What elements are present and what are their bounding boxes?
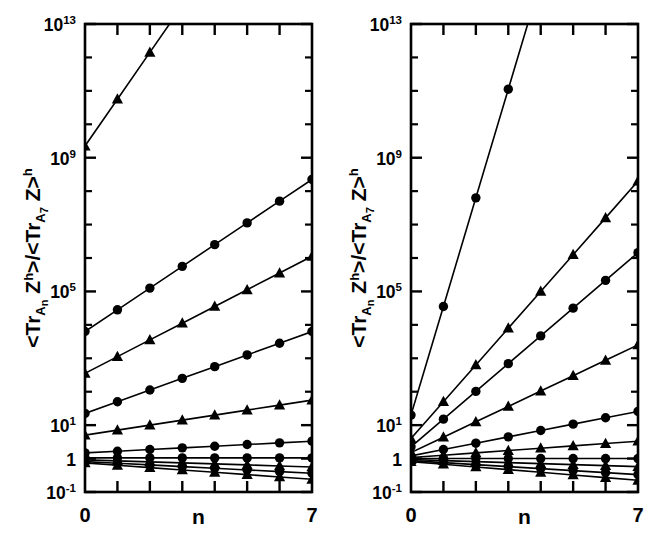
y-ticklabel-right-3: 101 [376, 415, 402, 436]
data-point-left-s6-5 [242, 440, 251, 449]
y-ticklabel-left-3: 101 [50, 415, 76, 436]
data-point-left-s3-0 [79, 367, 90, 377]
y-ticklabel-left-5: 10-1 [46, 482, 76, 503]
data-point-right-r4-7 [632, 339, 643, 349]
data-point-right-r3-7 [633, 248, 642, 257]
x-axis-title-text-left: n [192, 505, 205, 528]
data-point-left-s4-3 [178, 374, 187, 383]
series-right-r4 [405, 339, 643, 457]
data-point-right-r4-1 [438, 431, 449, 441]
data-point-right-r4-2 [470, 416, 481, 426]
data-point-left-s3-5 [242, 284, 253, 294]
data-point-left-s6-4 [210, 442, 219, 451]
data-point-right-r3-4 [536, 331, 545, 340]
data-point-left-s6-6 [275, 438, 284, 447]
y-axis-title-text-left: <TrAn Zh>/<TrA7 Z>h [20, 168, 50, 348]
y-ticklabel-right-2: 105 [376, 281, 402, 302]
data-point-right-r3-2 [471, 387, 480, 396]
data-point-right-r5-3 [504, 432, 513, 441]
data-point-left-s2-0 [80, 327, 89, 336]
series-clip-layer-right [405, 0, 643, 485]
data-point-left-s6-2 [145, 445, 154, 454]
y-axis-title-right: <TrAn Zh>/<TrA7 Z>h [346, 168, 376, 348]
data-point-left-s4-6 [275, 339, 284, 348]
x-ticklabel-left-1: 7 [306, 504, 317, 526]
series-right-r1 [406, 0, 638, 420]
data-point-left-s3-3 [177, 317, 188, 327]
data-point-right-r3-6 [601, 276, 610, 285]
data-point-right-r5-7 [633, 407, 642, 416]
y-axis-title-left: <TrAn Zh>/<TrA7 Z>h [20, 168, 50, 348]
data-point-left-s3-7 [306, 250, 317, 260]
plot-border-left [85, 24, 312, 492]
series-line-right-r1 [411, 0, 638, 415]
data-point-left-s3-4 [209, 301, 220, 311]
data-point-right-r5-2 [471, 438, 480, 447]
data-point-left-s4-2 [145, 385, 154, 394]
data-point-left-s2-7 [307, 175, 316, 184]
y-ticklabel-right-4: 1 [392, 450, 402, 470]
data-point-right-r1-1 [439, 302, 448, 311]
plot-frame-left [85, 24, 312, 492]
data-point-right-r5-6 [601, 413, 610, 422]
data-point-left-s2-4 [210, 240, 219, 249]
x-axis-title-right: n [518, 505, 531, 528]
y-axis-tick-labels-right: 1013109105101110-1 [370, 14, 403, 503]
data-point-left-s2-1 [113, 305, 122, 314]
y-ticklabel-left-2: 105 [50, 281, 76, 302]
x-ticklabel-right-1: 7 [632, 504, 643, 526]
data-point-right-r4-6 [600, 354, 611, 364]
data-point-left-s4-7 [307, 327, 316, 336]
data-point-right-r5-5 [568, 419, 577, 428]
series-left-s1 [79, 0, 312, 150]
chart-svg-left: 1013109105101110-1 <TrAn Zh>/<TrA7 Z>h 0… [0, 0, 330, 539]
data-point-left-s6-3 [178, 443, 187, 452]
data-point-left-s4-4 [210, 362, 219, 371]
data-point-right-r1-3 [504, 84, 513, 93]
data-point-right-r5-4 [536, 426, 545, 435]
data-series-group-right [405, 0, 643, 485]
y-ticklabel-right-5: 10-1 [372, 482, 402, 503]
chart-panel-left: 1013109105101110-1 <TrAn Zh>/<TrA7 Z>h 0… [0, 0, 330, 539]
data-point-right-r4-4 [535, 385, 546, 395]
axis-ticks-left [85, 24, 312, 492]
figure-root: 1013109105101110-1 <TrAn Zh>/<TrA7 Z>h 0… [0, 0, 656, 539]
data-point-right-r6-7 [632, 435, 643, 445]
y-ticklabel-left-1: 109 [50, 148, 76, 169]
series-clip-layer-left [79, 0, 317, 484]
y-ticklabel-left-0: 1013 [44, 14, 76, 35]
data-point-left-s2-3 [178, 262, 187, 271]
y-ticklabel-right-1: 109 [376, 148, 402, 169]
data-point-right-r4-5 [568, 370, 579, 380]
chart-panel-right: 1013109105101110-1 <TrAn Zh>/<TrA7 Z>h 0… [326, 0, 656, 539]
data-point-left-s5-7 [306, 394, 317, 404]
series-left-s2 [80, 175, 316, 336]
data-point-left-s3-1 [112, 351, 123, 361]
data-point-left-s4-0 [80, 409, 89, 418]
y-axis-tick-labels-left: 1013109105101110-1 [44, 14, 77, 503]
data-point-right-r4-3 [503, 401, 514, 411]
data-point-right-r1-2 [471, 193, 480, 202]
chart-svg-right: 1013109105101110-1 <TrAn Zh>/<TrA7 Z>h 0… [326, 0, 656, 539]
data-point-right-r2-7 [632, 175, 643, 185]
x-axis-title-left: n [192, 505, 205, 528]
data-point-right-r3-5 [568, 303, 577, 312]
x-ticklabel-right-0: 0 [405, 504, 416, 526]
data-point-left-s2-2 [145, 283, 154, 292]
data-point-left-s2-5 [242, 218, 251, 227]
data-point-left-s4-5 [242, 350, 251, 359]
y-ticklabel-left-4: 1 [66, 450, 76, 470]
data-point-left-s3-6 [274, 267, 285, 277]
series-left-s3 [79, 250, 317, 377]
data-point-left-s6-7 [307, 436, 316, 445]
data-point-right-r3-3 [504, 359, 513, 368]
data-point-right-r3-1 [439, 414, 448, 423]
y-axis-title-text-right: <TrAn Zh>/<TrA7 Z>h [346, 168, 376, 348]
data-point-left-s2-6 [275, 196, 284, 205]
data-series-group-left [79, 0, 317, 484]
x-ticklabel-left-0: 0 [79, 504, 90, 526]
series-line-left-s1 [85, 0, 312, 146]
x-axis-title-text-right: n [518, 505, 531, 528]
y-ticklabel-right-0: 1013 [370, 14, 402, 35]
data-point-left-s4-1 [113, 397, 122, 406]
